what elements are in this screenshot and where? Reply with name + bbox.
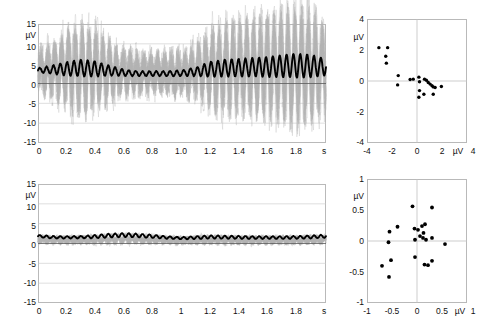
scatter-point bbox=[396, 225, 400, 229]
scatter-point bbox=[386, 46, 389, 49]
scatter-point bbox=[440, 85, 443, 88]
scatter-point bbox=[430, 236, 434, 240]
bottom-right-yaxis-unit: µV bbox=[342, 192, 364, 201]
scatter-point bbox=[396, 83, 399, 86]
scatter-point bbox=[433, 86, 436, 89]
scatter-point bbox=[413, 238, 417, 242]
top-left-xtick-0: 0 bbox=[33, 147, 45, 156]
bottom-left-xtick-12: 1.2 bbox=[200, 307, 220, 316]
scatter-point bbox=[413, 255, 417, 259]
bottom-left-xtick-02: 0.2 bbox=[56, 307, 76, 316]
scatter-point bbox=[432, 92, 435, 95]
panel-top-left-timeseries: 15 µV 10 5 0 -5 -10 -15 0 0.2 0.4 0.6 0.… bbox=[0, 0, 340, 163]
scatter-point bbox=[408, 78, 411, 81]
top-left-xaxis-unit: s bbox=[318, 147, 330, 156]
bottom-left-xtick-08: 0.8 bbox=[142, 307, 162, 316]
scatter-point bbox=[430, 206, 434, 210]
top-right-plot-area bbox=[367, 19, 467, 143]
top-right-ytick-0: 0 bbox=[342, 77, 364, 86]
scatter-point bbox=[387, 240, 391, 244]
scatter-point bbox=[412, 77, 415, 80]
bottom-right-ytick-m1: -1 bbox=[340, 298, 364, 307]
top-left-plot-area bbox=[38, 24, 326, 143]
top-right-points bbox=[377, 46, 443, 99]
top-right-xtick-m2: -2 bbox=[386, 147, 398, 156]
scatter-point bbox=[397, 74, 400, 77]
top-right-ytick-m4: -4 bbox=[340, 138, 364, 147]
bottom-right-ytick-05: 0.5 bbox=[340, 206, 364, 215]
top-right-yaxis-unit: µV bbox=[342, 33, 364, 42]
scatter-point bbox=[413, 227, 417, 231]
top-right-xtick-0: 0 bbox=[411, 147, 423, 156]
top-left-yaxis-unit: µV bbox=[18, 31, 36, 40]
panel-bottom-left-timeseries: 15 µV 10 5 0 -5 -10 -15 0 0.2 0.4 0.6 0.… bbox=[0, 163, 340, 324]
bottom-left-ytick-15: 15 bbox=[18, 180, 36, 189]
scatter-point bbox=[385, 61, 388, 64]
bottom-left-xaxis-unit: s bbox=[318, 307, 330, 316]
scatter-point bbox=[418, 89, 421, 92]
bottom-left-ytick-0: 0 bbox=[18, 241, 36, 250]
top-left-ytick-m5: -5 bbox=[14, 100, 36, 109]
scatter-point bbox=[430, 259, 434, 263]
bottom-left-xtick-04: 0.4 bbox=[85, 307, 105, 316]
panel-bottom-right-scatter: 1 µV 0.5 0 -0.5 -1 -1 -0.5 0 0.5 µV 1 bbox=[340, 163, 497, 324]
top-left-trial-traces bbox=[38, 0, 326, 137]
scatter-point bbox=[424, 238, 428, 242]
scatter-point bbox=[417, 96, 420, 99]
bottom-right-xtick-m1: -1 bbox=[361, 307, 373, 316]
scatter-point bbox=[426, 263, 430, 267]
bottom-right-plot-area bbox=[367, 179, 467, 303]
bottom-left-ytick-m15: -15 bbox=[12, 298, 36, 307]
top-left-ytick-10: 10 bbox=[18, 43, 36, 52]
scatter-point bbox=[388, 230, 392, 234]
scatter-point bbox=[411, 204, 415, 208]
top-right-xtick-2: 2 bbox=[436, 147, 448, 156]
top-left-xtick-02: 0.2 bbox=[56, 147, 76, 156]
scatter-point bbox=[443, 242, 447, 246]
bottom-left-ytick-m10: -10 bbox=[12, 279, 36, 288]
scatter-point bbox=[384, 55, 387, 58]
bottom-left-xtick-18: 1.8 bbox=[286, 307, 306, 316]
bottom-right-xtick-1: 1 bbox=[467, 307, 479, 316]
top-left-ytick-5: 5 bbox=[18, 62, 36, 71]
scatter-point bbox=[377, 46, 380, 49]
top-left-ytick-m10: -10 bbox=[12, 119, 36, 128]
bottom-left-xtick-06: 0.6 bbox=[114, 307, 134, 316]
bottom-left-xtick-16: 1.6 bbox=[257, 307, 277, 316]
bottom-left-ytick-10: 10 bbox=[18, 203, 36, 212]
scatter-point bbox=[416, 228, 420, 232]
bottom-left-plot-area bbox=[38, 184, 326, 303]
scatter-point bbox=[387, 275, 391, 279]
bottom-left-xtick-0: 0 bbox=[33, 307, 45, 316]
bottom-left-xtick-14: 1.4 bbox=[229, 307, 249, 316]
bottom-right-xtick-m05: -0.5 bbox=[381, 307, 403, 316]
top-left-xtick-06: 0.6 bbox=[114, 147, 134, 156]
bottom-right-xtick-05: 0.5 bbox=[431, 307, 453, 316]
top-left-xtick-12: 1.2 bbox=[200, 147, 220, 156]
top-left-xtick-08: 0.8 bbox=[142, 147, 162, 156]
bottom-left-ytick-m5: -5 bbox=[14, 260, 36, 269]
top-right-xtick-m4: -4 bbox=[361, 147, 373, 156]
top-left-xtick-04: 0.4 bbox=[85, 147, 105, 156]
top-left-xtick-14: 1.4 bbox=[229, 147, 249, 156]
top-left-ytick-15: 15 bbox=[18, 20, 36, 29]
scatter-point bbox=[389, 258, 393, 262]
bottom-left-yaxis-unit: µV bbox=[18, 191, 36, 200]
bottom-right-xaxis-unit: µV bbox=[453, 307, 467, 316]
top-right-ytick-2: 2 bbox=[342, 46, 364, 55]
top-right-ytick-m2: -2 bbox=[340, 108, 364, 117]
bottom-right-xtick-0: 0 bbox=[411, 307, 423, 316]
scatter-point bbox=[417, 75, 420, 78]
scatter-point bbox=[422, 92, 425, 95]
top-right-xaxis-unit: µV bbox=[451, 147, 465, 156]
bottom-right-points bbox=[380, 204, 447, 278]
top-right-ytick-4: 4 bbox=[342, 15, 364, 24]
bottom-right-ytick-m05: -0.5 bbox=[340, 268, 364, 277]
top-left-ytick-0: 0 bbox=[18, 81, 36, 90]
bottom-right-ytick-0: 0 bbox=[342, 237, 364, 246]
bottom-right-ytick-1: 1 bbox=[342, 175, 364, 184]
top-left-ytick-m15: -15 bbox=[12, 138, 36, 147]
scatter-point bbox=[418, 80, 421, 83]
top-right-xtick-4: 4 bbox=[467, 147, 479, 156]
scatter-point bbox=[380, 264, 384, 268]
